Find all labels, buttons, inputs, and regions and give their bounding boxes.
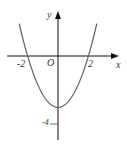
parabola-plot [0,0,127,145]
y-axis-label: y [47,10,51,20]
x-tick-label-minus-2: -2 [17,59,25,69]
x-tick-label-2: 2 [88,59,93,69]
y-axis-arrow-icon [55,11,61,19]
y-tick-label-minus-4: -4 [42,119,49,127]
origin-label: O [47,58,54,68]
x-axis-label: x [116,60,120,70]
